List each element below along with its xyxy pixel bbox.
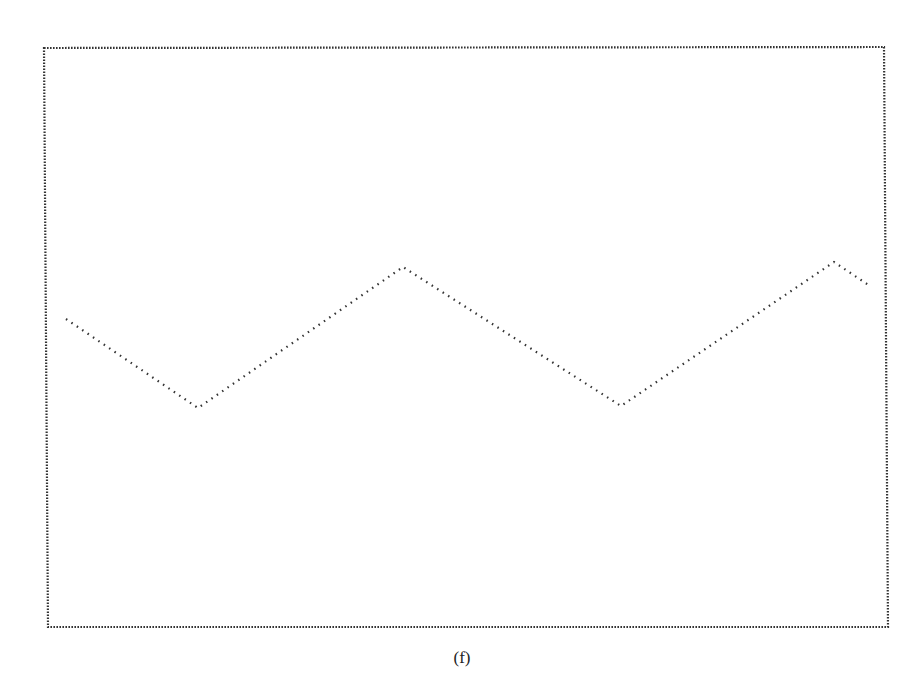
plot-frame — [44, 47, 888, 627]
chart-plot — [0, 0, 924, 684]
triangle-wave-series — [66, 262, 870, 408]
figure-caption: (f) — [0, 648, 924, 668]
